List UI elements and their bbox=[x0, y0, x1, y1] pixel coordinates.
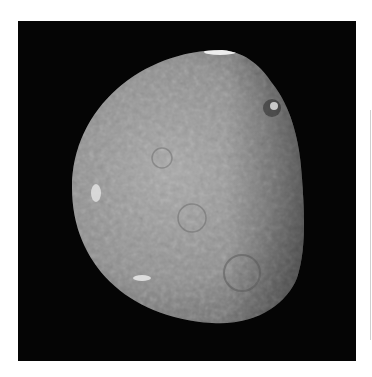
moon bbox=[72, 48, 352, 326]
space-background bbox=[18, 21, 356, 361]
page-edge-line bbox=[370, 110, 371, 340]
moon-illustration bbox=[72, 48, 352, 326]
